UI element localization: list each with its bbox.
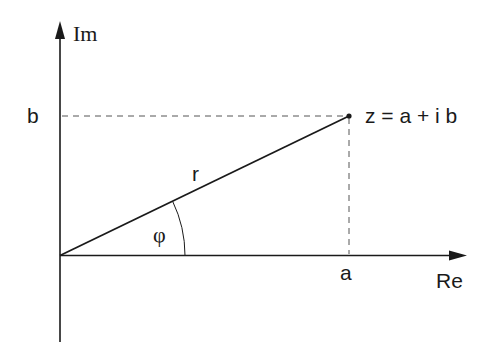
- r-label: r: [192, 163, 199, 184]
- real-axis-label: Re: [436, 270, 463, 291]
- b-label: b: [27, 105, 39, 126]
- angle-arc: [173, 201, 185, 255]
- point-z-label: z = a + i b: [365, 105, 457, 126]
- imaginary-axis-label: Im: [73, 23, 97, 45]
- point-z: [346, 113, 351, 118]
- diagram-graphics: [0, 0, 503, 358]
- radius-vector: [60, 116, 349, 256]
- phi-label: φ: [153, 224, 166, 246]
- complex-plane-diagram: Im Re b a r φ z = a + i b: [0, 0, 503, 358]
- a-label: a: [340, 262, 352, 283]
- imaginary-axis-arrowhead: [55, 21, 65, 39]
- real-axis-arrowhead: [449, 251, 467, 261]
